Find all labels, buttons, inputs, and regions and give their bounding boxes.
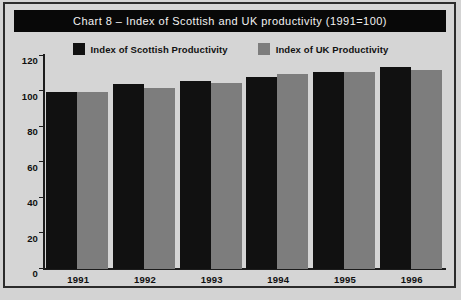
y-tick-label: 40 (27, 197, 44, 208)
bar-1991-uk (77, 92, 108, 270)
bar-1995-scottish (313, 72, 344, 269)
bar-1996-scottish (380, 67, 411, 269)
bar-1992-scottish (113, 84, 144, 269)
chart-figure: Chart 8 – Index of Scottish and UK produ… (0, 0, 461, 300)
legend-item-scottish: Index of Scottish Productivity (73, 43, 228, 55)
y-tick-100: 100 (0, 86, 44, 96)
bar-1992-uk (144, 88, 175, 269)
y-tick-label: 120 (22, 55, 44, 66)
x-tick-label-1991: 1991 (45, 274, 112, 285)
y-tick-label: 20 (27, 233, 44, 244)
bar-1994-uk (277, 74, 308, 269)
y-tick-20: 20 (0, 228, 44, 238)
y-tick-0: 0 (0, 263, 44, 273)
x-tick-label-1996: 1996 (378, 274, 445, 285)
y-tick-80: 80 (0, 121, 44, 131)
bar-1993-uk (211, 83, 242, 269)
y-tick-60: 60 (0, 157, 44, 167)
page-title: Chart 8 – Index of Scottish and UK produ… (73, 15, 387, 27)
y-tick-label: 100 (22, 91, 44, 102)
x-tick-label-1995: 1995 (312, 274, 379, 285)
y-tick-label: 60 (27, 162, 44, 173)
bar-1995-uk (344, 72, 375, 269)
legend-item-uk: Index of UK Productivity (258, 43, 389, 55)
y-tick-120: 120 (0, 50, 44, 60)
chart-footnote (6, 293, 456, 300)
x-tick-label-1993: 1993 (178, 274, 245, 285)
x-tick-label-1994: 1994 (245, 274, 312, 285)
legend-label-uk: Index of UK Productivity (276, 44, 389, 55)
y-tick-40: 40 (0, 192, 44, 202)
chart-title-bar: Chart 8 – Index of Scottish and UK produ… (14, 10, 446, 32)
bar-1994-scottish (246, 77, 277, 269)
legend-label-scottish: Index of Scottish Productivity (91, 44, 228, 55)
y-tick-label: 80 (27, 126, 44, 137)
plot-area (44, 55, 446, 269)
bar-1991-scottish (46, 92, 77, 270)
bar-1993-scottish (180, 81, 211, 269)
x-tick-label-1992: 1992 (112, 274, 179, 285)
y-tick-label: 0 (33, 268, 44, 279)
bar-1996-uk (411, 70, 442, 269)
legend-swatch-uk-icon (258, 43, 270, 55)
legend-swatch-scottish-icon (73, 43, 85, 55)
